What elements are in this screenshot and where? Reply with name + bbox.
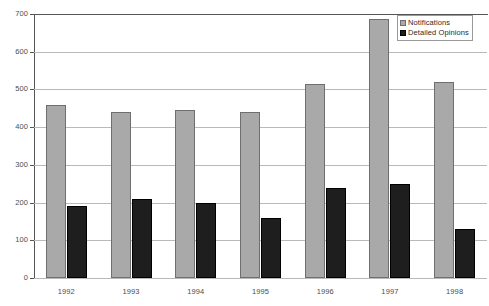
bar-1994-detailed-opinions	[196, 203, 216, 278]
x-axis-tick-label-1998: 1998	[422, 288, 487, 296]
y-axis-tick-mark	[30, 127, 34, 128]
y-axis-tick-mark	[30, 278, 34, 279]
bar-group-1994	[175, 14, 216, 278]
bar-1994-notifications	[175, 110, 195, 278]
bar-1998-detailed-opinions	[455, 229, 475, 278]
y-axis-tick-mark	[30, 165, 34, 166]
bar-chart: 0100200300400500600700 19921993199419951…	[0, 0, 489, 306]
y-axis-tick-label: 500	[0, 85, 28, 93]
legend-swatch-icon	[400, 30, 406, 36]
legend-item-notifications: Notifications	[400, 18, 469, 28]
y-axis-tick-label: 600	[0, 48, 28, 56]
gridline-0	[34, 278, 487, 279]
bar-group-1995	[240, 14, 281, 278]
chart-legend: NotificationsDetailed Opinions	[397, 15, 473, 41]
y-axis-tick-label: 0	[0, 274, 28, 282]
bar-1995-notifications	[240, 112, 260, 278]
y-axis-tick-label: 200	[0, 199, 28, 207]
y-axis-tick-label: 100	[0, 236, 28, 244]
bar-1996-notifications	[305, 84, 325, 278]
bar-1998-notifications	[434, 82, 454, 278]
x-axis-tick-label-1997: 1997	[358, 288, 423, 296]
y-axis-tick-label: 400	[0, 123, 28, 131]
bar-group-1992	[46, 14, 87, 278]
x-axis-tick-label-1992: 1992	[34, 288, 99, 296]
bar-1997-notifications	[369, 19, 389, 278]
bar-1992-notifications	[46, 105, 66, 278]
bar-1992-detailed-opinions	[67, 206, 87, 278]
legend-swatch-icon	[400, 20, 406, 26]
bar-1993-notifications	[111, 112, 131, 278]
y-axis-tick-mark	[30, 52, 34, 53]
y-axis-tick-label: 300	[0, 161, 28, 169]
y-axis-tick-label: 700	[0, 10, 28, 18]
bar-1993-detailed-opinions	[132, 199, 152, 278]
bar-group-1997	[369, 14, 410, 278]
bar-1995-detailed-opinions	[261, 218, 281, 278]
bar-1997-detailed-opinions	[390, 184, 410, 278]
bar-1996-detailed-opinions	[326, 188, 346, 279]
x-axis-tick-label-1996: 1996	[293, 288, 358, 296]
bar-group-1993	[111, 14, 152, 278]
y-axis-tick-mark	[30, 240, 34, 241]
bar-group-1998	[434, 14, 475, 278]
x-axis-tick-label-1993: 1993	[99, 288, 164, 296]
legend-item-detailed-opinions: Detailed Opinions	[400, 28, 469, 38]
y-axis-tick-mark	[30, 14, 34, 15]
legend-label: Detailed Opinions	[408, 29, 469, 37]
bar-group-1996	[305, 14, 346, 278]
legend-label: Notifications	[408, 19, 450, 27]
x-axis-tick-label-1995: 1995	[228, 288, 293, 296]
y-axis-tick-mark	[30, 203, 34, 204]
x-axis-tick-label-1994: 1994	[163, 288, 228, 296]
y-axis-tick-mark	[30, 89, 34, 90]
